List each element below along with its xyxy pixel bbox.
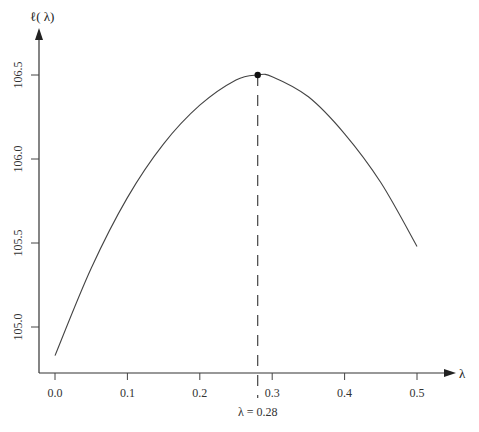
y-axis-label: ℓ( λ) xyxy=(30,9,54,24)
x-tick-label: 0.4 xyxy=(337,386,352,400)
x-tick-label: 0.1 xyxy=(120,386,135,400)
line-chart: 0.00.10.20.30.40.5105.0105.5106.0106.5 ℓ… xyxy=(0,0,479,432)
y-axis-arrow-icon xyxy=(35,28,43,40)
x-tick-label: 0.0 xyxy=(48,386,63,400)
y-tick-label: 105.0 xyxy=(11,314,25,341)
x-tick-label: 0.3 xyxy=(265,386,280,400)
x-tick-label: 0.5 xyxy=(410,386,425,400)
x-tick-label: 0.2 xyxy=(192,386,207,400)
ticks: 0.00.10.20.30.40.5105.0105.5106.0106.5 xyxy=(11,62,425,401)
y-tick-label: 106.0 xyxy=(11,146,25,173)
max-point-marker xyxy=(255,72,261,78)
max-annotation-label: λ = 0.28 xyxy=(238,405,278,419)
x-axis-arrow-icon xyxy=(444,369,456,377)
chart-container: 0.00.10.20.30.40.5105.0105.5106.0106.5 ℓ… xyxy=(0,0,479,432)
y-tick-label: 106.5 xyxy=(11,62,25,89)
y-tick-label: 105.5 xyxy=(11,230,25,257)
x-axis-label: λ xyxy=(459,366,466,381)
likelihood-curve xyxy=(55,74,417,355)
